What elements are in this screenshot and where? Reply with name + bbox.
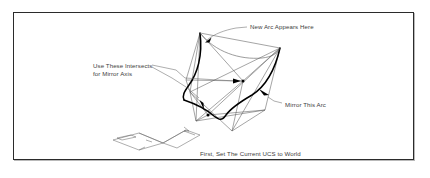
arrowhead-mirror-arc [259, 89, 269, 96]
leader-mirror-arc [268, 97, 282, 103]
label-intersects-line2: for Mirror Axis [93, 70, 152, 78]
arrowhead-intersects-upper [233, 78, 241, 83]
leader-intersects [152, 65, 235, 81]
label-new-arc: New Arc Appears Here [250, 23, 314, 31]
label-intersects: Use These Intersects for Mirror Axis [93, 62, 152, 77]
ucs-icon [113, 127, 200, 150]
label-mirror-arc: Mirror This Arc [285, 101, 326, 109]
leader-intersects-lower [152, 67, 199, 98]
label-caption-ucs: First, Set The Current UCS to World [200, 150, 301, 158]
figure-page: New Arc Appears Here Use These Intersect… [0, 0, 430, 178]
intersection-point-lower [207, 114, 210, 117]
intersection-point-upper [242, 80, 245, 83]
label-intersects-line1: Use These Intersects [93, 62, 152, 70]
